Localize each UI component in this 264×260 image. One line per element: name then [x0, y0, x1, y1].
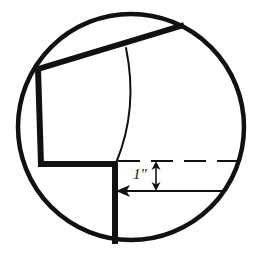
dimension-label-one-inch: 1": [133, 167, 147, 182]
diagram-figure: 1": [0, 0, 264, 260]
center-curve-line: [116, 48, 131, 163]
field-of-view-circle: [18, 14, 244, 240]
left-vertical-edge: [38, 68, 41, 165]
diagram-canvas: [0, 0, 264, 260]
vertical-dimension-arrow: [152, 161, 161, 191]
diagonal-top-edge: [38, 25, 184, 69]
horizontal-leader-line: [116, 185, 226, 197]
